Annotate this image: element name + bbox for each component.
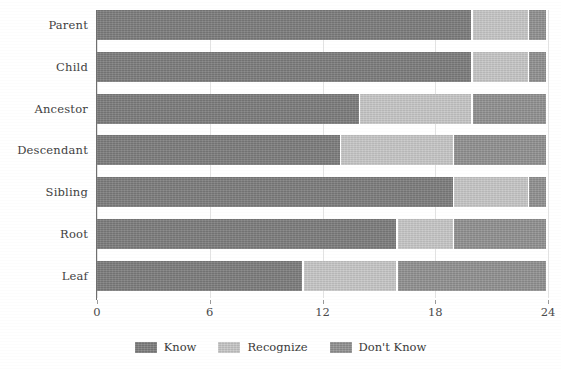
legend-item: Know	[135, 340, 197, 354]
chart-legend: KnowRecognizeDon't Know	[0, 340, 561, 354]
plot-area	[97, 10, 548, 298]
stacked-bar-chart: ParentChildAncestorDescendantSiblingRoot…	[0, 0, 561, 369]
legend-label: Recognize	[247, 340, 307, 354]
bar-segment-don-t-know	[398, 261, 547, 291]
bar-row	[97, 177, 548, 207]
y-axis-label-ancestor: Ancestor	[0, 102, 88, 116]
bar-segment-recognize	[454, 177, 528, 207]
x-tick-label-18: 18	[428, 305, 443, 319]
x-tick-label-24: 24	[541, 305, 556, 319]
x-axis: 06121824	[97, 300, 548, 322]
legend-swatch-icon	[330, 342, 352, 353]
x-tick-label-0: 0	[93, 305, 100, 319]
bar-segment-know	[97, 135, 340, 165]
legend-item: Don't Know	[330, 340, 427, 354]
y-axis-label-child: Child	[0, 60, 88, 74]
x-tick-18	[435, 300, 436, 304]
x-tick-label-6: 6	[206, 305, 213, 319]
x-tick-6	[210, 300, 211, 304]
y-axis-label-descendant: Descendant	[0, 143, 88, 157]
bar-row	[97, 261, 548, 291]
bar-row	[97, 135, 548, 165]
y-axis-label-leaf: Leaf	[0, 269, 88, 283]
y-axis-label-parent: Parent	[0, 18, 88, 32]
gridline-x-24	[548, 10, 549, 298]
x-tick-24	[548, 300, 549, 304]
bar-segment-know	[97, 261, 302, 291]
bar-segment-don-t-know	[454, 135, 546, 165]
legend-swatch-icon	[218, 342, 240, 353]
bar-segment-know	[97, 52, 471, 82]
legend-label: Don't Know	[359, 340, 427, 354]
x-tick-12	[323, 300, 324, 304]
bar-row	[97, 94, 548, 124]
bar-segment-recognize	[304, 261, 396, 291]
bar-segment-don-t-know	[529, 52, 546, 82]
y-axis-label-root: Root	[0, 227, 88, 241]
bar-segment-know	[97, 219, 396, 249]
x-tick-0	[97, 300, 98, 304]
legend-item: Recognize	[218, 340, 307, 354]
bar-segment-recognize	[360, 94, 471, 124]
bar-segment-recognize	[341, 135, 452, 165]
bar-segment-don-t-know	[454, 219, 546, 249]
bar-row	[97, 10, 548, 40]
bar-segment-don-t-know	[529, 177, 546, 207]
legend-swatch-icon	[135, 342, 157, 353]
y-axis-label-sibling: Sibling	[0, 185, 88, 199]
x-tick-label-12: 12	[315, 305, 330, 319]
bar-segment-know	[97, 94, 359, 124]
bar-segment-recognize	[398, 219, 453, 249]
bar-segment-recognize	[473, 10, 528, 40]
bar-segment-don-t-know	[529, 10, 546, 40]
bar-row	[97, 219, 548, 249]
bar-segment-know	[97, 10, 471, 40]
bar-segment-know	[97, 177, 453, 207]
bar-row	[97, 52, 548, 82]
legend-label: Know	[164, 340, 197, 354]
bar-segment-recognize	[473, 52, 528, 82]
bar-segment-don-t-know	[473, 94, 547, 124]
